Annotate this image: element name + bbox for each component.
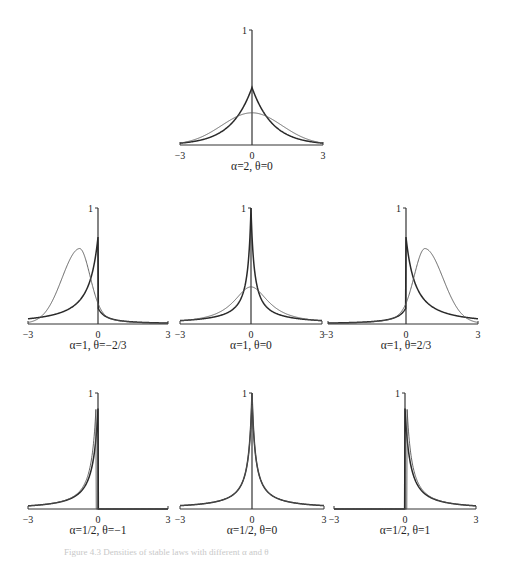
x-tick-min: −3 [175, 514, 186, 525]
x-tick-min: −3 [323, 329, 334, 340]
x-tick-min: −3 [175, 150, 186, 161]
panel-7: −3031α=1/2, θ=1 [329, 388, 479, 537]
stable-density-curve [28, 409, 168, 509]
x-tick-max: 3 [476, 329, 481, 340]
y-tick-one: 1 [241, 203, 246, 214]
panel-title: α=1, θ=2/3 [381, 339, 432, 352]
x-tick-max: 3 [322, 514, 327, 525]
x-tick-max: 3 [166, 329, 171, 340]
stable-density-curve [334, 409, 476, 509]
panel-6: −3031α=1/2, θ=0 [175, 388, 327, 537]
x-tick-max: 3 [321, 150, 326, 161]
stable-densities-figure: −3031α=2, θ=0−3031α=1, θ=−2/3−3031α=1, θ… [0, 0, 506, 563]
panel-title: α=1/2, θ=1 [380, 524, 431, 537]
panel-1: −3031α=2, θ=0 [175, 25, 326, 173]
panel-5: −3031α=1/2, θ=−1 [23, 388, 171, 537]
x-tick-min: −3 [23, 514, 34, 525]
panel-2: −3031α=1, θ=−2/3 [23, 203, 171, 352]
y-tick-one: 1 [396, 203, 401, 214]
panel-title: α=1/2, θ=−1 [69, 524, 126, 537]
x-tick-min: −3 [175, 329, 186, 340]
y-tick-one: 1 [88, 388, 93, 399]
panel-title: α=1, θ=0 [230, 339, 272, 352]
figure-caption: Figure 4.3 Densities of stable laws with… [64, 547, 269, 557]
panel-3: −3031α=1, θ=0 [175, 203, 325, 352]
panel-title: α=1, θ=−2/3 [69, 339, 126, 352]
x-tick-min: −3 [23, 329, 34, 340]
x-tick-max: 3 [474, 514, 479, 525]
y-tick-one: 1 [242, 388, 247, 399]
x-tick-max: 3 [166, 514, 171, 525]
y-tick-one: 1 [88, 203, 93, 214]
stable-density-curve [328, 237, 478, 323]
panel-4: −3031α=1, θ=2/3 [323, 203, 481, 352]
y-tick-one: 1 [395, 388, 400, 399]
panel-title: α=1/2, θ=0 [227, 524, 278, 537]
panel-title: α=2, θ=0 [231, 160, 273, 173]
x-tick-min: −3 [329, 514, 340, 525]
y-tick-one: 1 [242, 25, 247, 36]
